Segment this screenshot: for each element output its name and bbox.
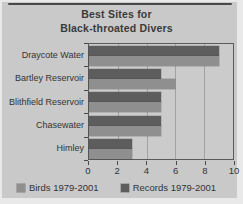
- bar-group-chasewater: [89, 114, 233, 137]
- bar-group-himley: [89, 138, 233, 161]
- bar-birds-chasewater: [89, 126, 161, 136]
- bar-records-himley: [89, 139, 132, 149]
- bar-records-bartley-reservoir: [89, 69, 161, 79]
- value-axis-label-2: 2: [115, 165, 120, 176]
- value-axis-label-0: 0: [85, 165, 90, 176]
- legend-label: Records 1979-2001: [133, 182, 216, 193]
- legend: Birds 1979-2001Records 1979-2001: [0, 182, 233, 193]
- category-axis-labels: Draycote WaterBartley ReservoirBlithfiel…: [0, 43, 84, 160]
- legend-item-birds-1979-2001: Birds 1979-2001: [17, 182, 99, 193]
- legend-swatch-icon: [121, 184, 129, 192]
- chart-top-border: [8, 3, 232, 5]
- chart-title: Best Sites for Black-throated Divers: [0, 7, 233, 35]
- value-axis-label-10: 10: [229, 165, 240, 176]
- category-label-bartley-reservoir: Bartley Reservoir: [0, 73, 84, 83]
- category-axis-tick: [84, 66, 88, 67]
- value-axis-label-6: 6: [173, 165, 178, 176]
- chart-title-line1: Best Sites for: [0, 7, 233, 21]
- bar-records-draycote-water: [89, 46, 219, 56]
- chart-figure: Best Sites for Black-throated Divers Dra…: [0, 0, 243, 204]
- legend-item-records-1979-2001: Records 1979-2001: [121, 182, 216, 193]
- category-label-himley: Himley: [0, 143, 84, 153]
- category-label-draycote-water: Draycote Water: [0, 50, 84, 60]
- bar-birds-blithfield-reservoir: [89, 102, 161, 112]
- bar-birds-bartley-reservoir: [89, 79, 175, 89]
- bar-group-bartley-reservoir: [89, 67, 233, 90]
- category-axis-tick: [84, 137, 88, 138]
- category-label-chasewater: Chasewater: [0, 120, 84, 130]
- plot-area: [88, 43, 234, 160]
- bar-records-blithfield-reservoir: [89, 92, 161, 102]
- value-axis-label-4: 4: [144, 165, 149, 176]
- value-axis-label-8: 8: [202, 165, 207, 176]
- category-label-blithfield-reservoir: Blithfield Reservoir: [0, 97, 84, 107]
- bar-birds-himley: [89, 149, 132, 159]
- bar-birds-draycote-water: [89, 56, 219, 66]
- legend-swatch-icon: [17, 184, 25, 192]
- bar-records-chasewater: [89, 116, 161, 126]
- category-axis-tick: [84, 113, 88, 114]
- bar-group-draycote-water: [89, 44, 233, 67]
- category-axis-tick: [84, 43, 88, 44]
- bar-group-blithfield-reservoir: [89, 91, 233, 114]
- chart-title-line2: Black-throated Divers: [0, 21, 233, 35]
- legend-label: Birds 1979-2001: [29, 182, 99, 193]
- category-axis-tick: [84, 90, 88, 91]
